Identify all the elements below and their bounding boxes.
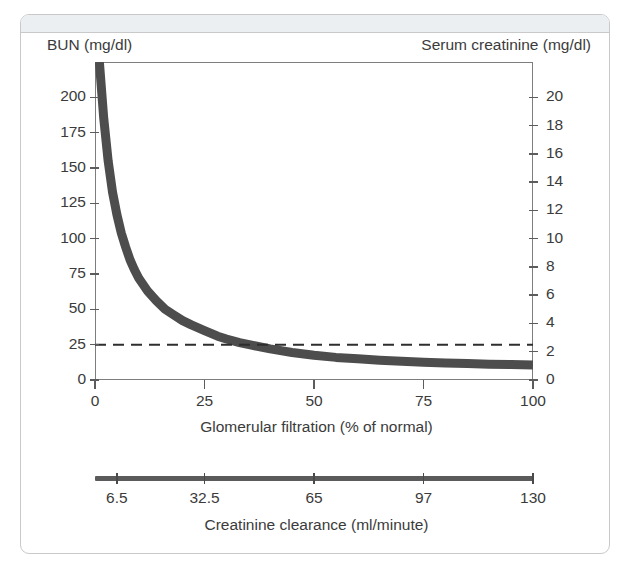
right-tick-label: 14 (546, 172, 606, 190)
right-tick-mark (529, 323, 538, 325)
creatinine-clearance-axis-label: Creatinine clearance (ml/minute) (0, 516, 633, 534)
left-tick-mark (90, 132, 99, 134)
right-tick-mark (529, 153, 538, 155)
bottom-tick-mark (204, 380, 206, 389)
right-tick-label: 0 (546, 370, 606, 388)
right-axis-title: Serum creatinine (mg/dl) (421, 36, 591, 54)
right-tick-label: 4 (546, 313, 606, 331)
right-tick-mark (529, 294, 538, 296)
right-tick-label: 12 (546, 200, 606, 218)
bottom-tick-label: 75 (394, 392, 454, 410)
left-tick-mark (90, 238, 99, 240)
clearance-tick-label: 130 (498, 489, 568, 507)
left-tick-mark (90, 97, 99, 99)
right-tick-label: 18 (546, 116, 606, 134)
x-axis-label: Glomerular filtration (% of normal) (0, 418, 633, 436)
left-tick-mark (90, 273, 99, 275)
left-tick-label: 175 (26, 123, 86, 141)
bottom-tick-mark (532, 380, 534, 389)
clearance-tick-label: 6.5 (82, 489, 152, 507)
bottom-tick-mark (94, 380, 96, 389)
bottom-tick-label: 0 (65, 392, 125, 410)
left-tick-label: 0 (26, 370, 86, 388)
left-tick-label: 50 (26, 299, 86, 317)
right-tick-label: 10 (546, 229, 606, 247)
clearance-tick-label: 32.5 (170, 489, 240, 507)
right-tick-label: 6 (546, 285, 606, 303)
chart-figure: BUN (mg/dl) Serum creatinine (mg/dl) 025… (0, 0, 633, 579)
left-tick-mark (90, 167, 99, 169)
bottom-tick-label: 100 (503, 392, 563, 410)
right-tick-label: 2 (546, 342, 606, 360)
right-tick-mark (529, 125, 538, 127)
left-tick-label: 75 (26, 264, 86, 282)
clearance-tick-mark (116, 473, 118, 484)
left-axis-title: BUN (mg/dl) (47, 36, 132, 54)
left-tick-label: 200 (26, 87, 86, 105)
right-tick-label: 8 (546, 257, 606, 275)
left-tick-mark (90, 309, 99, 311)
left-tick-label: 25 (26, 335, 86, 353)
clearance-tick-label: 97 (389, 489, 459, 507)
right-tick-label: 20 (546, 87, 606, 105)
right-tick-mark (529, 210, 538, 212)
clearance-tick-mark (313, 473, 315, 484)
left-tick-label: 150 (26, 158, 86, 176)
right-tick-mark (529, 181, 538, 183)
clearance-tick-mark (532, 473, 534, 484)
bottom-tick-label: 25 (175, 392, 235, 410)
data-curve (99, 62, 533, 365)
bottom-tick-mark (423, 380, 425, 389)
right-tick-mark (529, 351, 538, 353)
figure-page: BUN (mg/dl) Serum creatinine (mg/dl) 025… (0, 0, 633, 579)
right-tick-mark (529, 97, 538, 99)
left-tick-mark (90, 203, 99, 205)
left-tick-label: 100 (26, 229, 86, 247)
bottom-tick-mark (313, 380, 315, 389)
right-tick-label: 16 (546, 144, 606, 162)
left-tick-mark (90, 344, 99, 346)
clearance-tick-label: 65 (279, 489, 349, 507)
bottom-tick-label: 50 (284, 392, 344, 410)
left-tick-label: 125 (26, 193, 86, 211)
right-tick-mark (529, 238, 538, 240)
plot-canvas (95, 62, 533, 380)
right-tick-mark (529, 266, 538, 268)
clearance-tick-mark (204, 473, 206, 484)
clearance-tick-mark (423, 473, 425, 484)
